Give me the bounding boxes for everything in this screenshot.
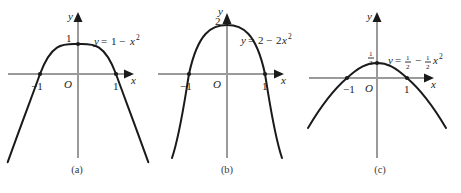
equation-equals-c: = xyxy=(395,54,401,66)
origin-label-c: O xyxy=(365,82,373,94)
equation-constant-denominator-c: 2 xyxy=(406,63,410,71)
equation-lhs-a: y xyxy=(93,35,99,47)
root-point-left-c xyxy=(345,76,349,80)
equation-minus-c: − xyxy=(415,54,421,66)
x-tick-label-minus-one-c: −1 xyxy=(343,83,355,95)
vertex-point-c xyxy=(375,61,379,65)
equation-label-b: y = 2 − 2 x 2 xyxy=(240,32,292,46)
panel-c: x y O −1 1 1 2 y = 1 2 − xyxy=(303,0,457,193)
y-axis-arrowhead-a xyxy=(74,12,83,22)
x-tick-label-one-c: 1 xyxy=(404,83,410,95)
y-intercept-fraction-c: 1 2 xyxy=(368,50,374,67)
y-intercept-label-a: 1 xyxy=(66,32,72,44)
x-tick-label-minus-one-a: −1 xyxy=(31,80,43,92)
equation-minus-a: − xyxy=(119,35,125,47)
origin-label-b: O xyxy=(213,78,221,90)
y-intercept-label-b: 2 xyxy=(215,15,221,27)
root-point-left-b xyxy=(187,72,191,76)
equation-coefficient-denominator-c: 2 xyxy=(426,63,430,71)
origin-label-a: O xyxy=(64,78,72,90)
panel-caption-a: (a) xyxy=(0,164,154,175)
x-tick-label-minus-one-b: −1 xyxy=(180,80,192,92)
x-tick-label-one-a: 1 xyxy=(113,80,119,92)
root-point-right-a xyxy=(114,72,118,76)
equation-lhs-b: y xyxy=(240,34,246,46)
x-tick-label-one-b: 1 xyxy=(262,80,268,92)
equation-variable-a: x xyxy=(129,35,135,47)
panel-caption-b: (b) xyxy=(150,164,304,175)
equation-constant-a: 1 xyxy=(111,35,117,47)
equation-minus-b: − xyxy=(266,34,272,46)
panel-c-plot: x y O −1 1 1 2 y = 1 2 − xyxy=(303,0,457,166)
y-axis-label-a: y xyxy=(67,10,73,22)
panel-b: x y O −1 1 2 y = 2 − 2 x 2 (b) xyxy=(150,0,304,193)
y-axis-arrowhead-b xyxy=(223,13,232,24)
x-axis-label-a: x xyxy=(130,74,136,86)
root-point-right-c xyxy=(405,76,409,80)
equation-constant-numerator-c: 1 xyxy=(406,54,410,62)
vertex-point-a xyxy=(76,42,80,46)
x-axis-label-b: x xyxy=(280,74,286,86)
x-axis-label-c: x xyxy=(430,78,436,90)
equation-coefficient-numerator-c: 1 xyxy=(426,54,430,62)
equation-constant-fraction-c: 1 2 xyxy=(405,54,411,71)
root-point-right-b xyxy=(263,72,267,76)
equation-equals-a: = xyxy=(101,35,107,47)
y-axis-label-c: y xyxy=(366,10,372,22)
panel-a-plot: x y O −1 1 1 y = 1 − x 2 xyxy=(0,0,154,166)
equation-equals-b: = xyxy=(248,34,254,46)
parabola-figure-group: x y O −1 1 1 y = 1 − x 2 (a) xyxy=(0,0,461,193)
equation-coefficient-b: 2 xyxy=(276,34,282,46)
equation-constant-b: 2 xyxy=(258,34,264,46)
equation-exponent-b: 2 xyxy=(288,32,292,41)
equation-variable-c: x xyxy=(432,54,438,66)
equation-label-a: y = 1 − x 2 xyxy=(93,33,140,47)
root-point-left-a xyxy=(38,72,42,76)
equation-exponent-c: 2 xyxy=(439,52,443,61)
y-intercept-denominator-c: 2 xyxy=(369,59,373,67)
panel-caption-c: (c) xyxy=(303,164,457,175)
equation-variable-b: x xyxy=(281,34,287,46)
panel-b-plot: x y O −1 1 2 y = 2 − 2 x 2 xyxy=(150,0,304,166)
equation-lhs-c: y xyxy=(387,54,393,66)
equation-exponent-a: 2 xyxy=(136,33,140,42)
panel-a: x y O −1 1 1 y = 1 − x 2 (a) xyxy=(0,0,154,193)
y-intercept-numerator-c: 1 xyxy=(369,50,373,58)
y-axis-arrowhead-c xyxy=(373,12,382,22)
equation-coefficient-fraction-c: 1 2 xyxy=(425,54,431,71)
